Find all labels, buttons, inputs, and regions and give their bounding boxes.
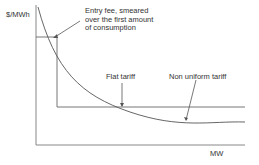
non-uniform-pointer (186, 80, 196, 120)
y-axis-label: $/MWh (6, 11, 30, 20)
tariff-chart: $/MWh Entry fee, smeared over the first … (0, 0, 259, 165)
x-axis-label: MW (210, 150, 223, 159)
entry-fee-pointer (55, 21, 80, 37)
flat-tariff-arrowhead (120, 103, 124, 107)
entry-fee-annotation: Entry fee, smeared over the first amount… (85, 7, 153, 33)
entry-fee-arrowhead (53, 34, 58, 38)
flat-tariff-annotation: Flat tariff (106, 73, 135, 82)
non-uniform-tariff-annotation: Non uniform tariff (169, 73, 226, 82)
non-uniform-arrowhead (184, 117, 188, 121)
